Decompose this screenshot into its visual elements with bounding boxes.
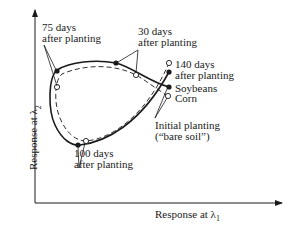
label-140-days-line2: after planting: [175, 70, 234, 81]
x-axis-label: Response at λ1: [155, 208, 220, 223]
corn-initial-marker: [165, 93, 170, 98]
label-initial-line2: (“bare soil”): [155, 131, 220, 142]
label-140-days: 140 days after planting: [175, 59, 234, 81]
label-initial-planting: Initial planting (“bare soil”): [155, 120, 220, 142]
y-axis-label-text: Response at λ: [27, 109, 39, 170]
soybeans-curve: [50, 61, 169, 145]
label-30-days-line2: after planting: [138, 37, 197, 48]
corn-curve: [56, 63, 169, 141]
corn-100-day-marker: [83, 138, 88, 143]
soy-30-day-marker: [113, 60, 118, 65]
corn-30-day-marker: [133, 72, 138, 77]
corn-140-day-marker: [166, 60, 171, 65]
x-axis-label-text: Response at λ: [155, 208, 216, 220]
label-75-days-line2: after planting: [42, 33, 101, 44]
label-corn: Corn: [175, 93, 197, 104]
label-100-days: 100 days after planting: [74, 148, 133, 170]
soy-140-day-marker: [166, 69, 171, 74]
x-axis-subscript: 1: [216, 214, 220, 223]
label-100-days-line2: after planting: [74, 159, 133, 170]
y-axis-subscript: 2: [34, 105, 43, 109]
label-75-days: 75 days after planting: [42, 22, 101, 44]
soy-initial-marker: [166, 84, 171, 89]
y-axis-label: Response at λ2: [27, 73, 42, 203]
label-30-days: 30 days after planting: [138, 26, 197, 48]
